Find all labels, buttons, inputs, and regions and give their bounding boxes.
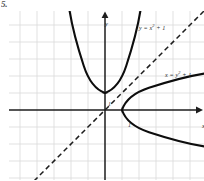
x-axis-arrow-icon	[196, 107, 203, 114]
problem-number: 5.	[1, 0, 7, 9]
tick-label-y-one: 1	[108, 101, 111, 107]
curve-identity-line	[34, 11, 204, 180]
figure-root: 5.	[0, 0, 204, 180]
axis-label-y: y	[105, 20, 108, 27]
coordinate-plane-svg	[9, 11, 204, 180]
curve-label-rightward-parabola-rhs: + 1	[181, 71, 192, 78]
curve-label-upward-parabola-rhs: + 1	[155, 24, 166, 31]
plot-area: y = x2 + 1 x = y2 + 1 y x 1 1	[9, 11, 204, 180]
curve-label-rightward-parabola: x = y2 + 1	[165, 71, 191, 78]
tick-label-x-one: 1	[128, 122, 131, 128]
curve-label-upward-parabola-lhs: y = x	[139, 24, 152, 31]
grid-lines	[9, 11, 204, 180]
axis-y	[102, 12, 109, 181]
axis-label-x: x	[202, 122, 204, 129]
curve-label-rightward-parabola-lhs: x = y	[165, 71, 178, 78]
y-axis-arrow-icon	[102, 12, 109, 19]
curve-label-upward-parabola: y = x2 + 1	[139, 24, 165, 31]
